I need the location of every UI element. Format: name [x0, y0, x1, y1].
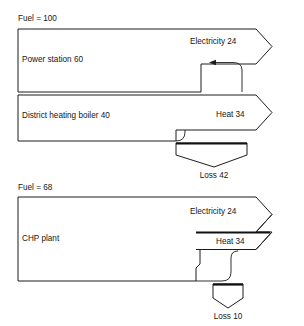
diagram-canvas: Fuel = 100 Power station 60 Electricity …: [0, 0, 304, 326]
power-station-label: Power station 60: [22, 55, 83, 64]
loss-42-label: Loss 42: [200, 171, 229, 180]
heat-output-label-chp: Heat 34: [216, 237, 245, 246]
loss-10-label: Loss 10: [214, 312, 243, 321]
fuel-label-separate: Fuel = 100: [18, 14, 57, 23]
electricity-output-label-chp: Electricity 24: [190, 207, 237, 216]
electricity-riser-connector: [214, 63, 242, 93]
loss-42-hook-connector: [176, 130, 185, 141]
electricity-output-label-separate: Electricity 24: [190, 37, 237, 46]
chp-electricity-arrow-lower-edge: [256, 215, 272, 233]
loss-10-hook-connector: [196, 251, 238, 281]
loss-10-funnel-shape: [213, 284, 243, 308]
energy-flow-diagram: Fuel = 100 Power station 60 Electricity …: [0, 0, 304, 326]
fuel-label-chp: Fuel = 68: [18, 183, 53, 192]
district-heating-boiler-label: District heating boiler 40: [22, 111, 110, 120]
heat-output-label-separate: Heat 34: [216, 110, 245, 119]
loss-42-funnel-shape: [176, 143, 247, 167]
chp-heat-arrow-upper-edge: [256, 232, 272, 250]
chp-plant-label: CHP plant: [22, 234, 60, 243]
